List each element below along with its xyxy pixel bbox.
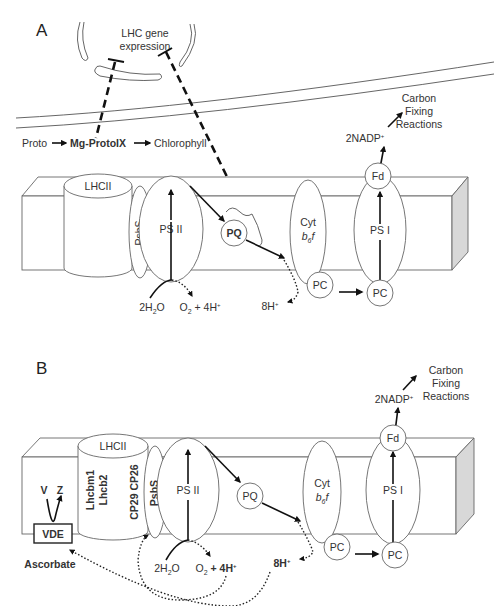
h8-label: 8H+	[262, 300, 279, 312]
cyt-label: Cyt	[300, 216, 316, 228]
fd-label-b: Fd	[387, 432, 399, 444]
mg-protoix-label: Mg-ProtoIX	[70, 137, 126, 149]
inhibition-bar-icon	[108, 59, 124, 62]
carbon-label-b: Carbon	[429, 364, 464, 376]
pc1-label-b: PC	[330, 541, 345, 553]
cyt-b6f-complex-b	[303, 441, 341, 543]
panel-b: B Carbon Fixing Reactions 2NADP+ LHCII L…	[22, 359, 474, 606]
water-label: 2H2O	[139, 301, 165, 315]
fixing-label: Fixing	[405, 105, 433, 117]
reactions-label-b: Reactions	[423, 390, 470, 402]
vde-label: VDE	[42, 528, 64, 540]
lhc-gene-expression-line2: expression	[120, 40, 171, 52]
lhcb2-label: Lhcb2	[97, 474, 109, 505]
lhcbm1-label: Lhcbm1	[84, 470, 96, 510]
psi-label-b: PS I	[383, 484, 403, 496]
oxygen-label: O2 + 4H+	[180, 301, 221, 315]
retrograde-signal-1	[96, 62, 115, 138]
proto-label: Proto	[22, 137, 47, 149]
fd-label: Fd	[372, 170, 384, 182]
cyt-label-b: Cyt	[314, 477, 330, 489]
lhcii-complex: LHCII	[64, 174, 132, 277]
oxygen-label-b: O2 + 4H+	[196, 562, 237, 576]
lhcii-label: LHCII	[85, 180, 112, 192]
nadp-label-b: 2NADP+	[375, 393, 414, 405]
nadp-label: 2NADP+	[346, 132, 385, 144]
h-to-vde-path	[70, 550, 270, 606]
photosynthesis-diagram: A LHC gene expression Proto Mg-ProtoIX C…	[0, 0, 494, 606]
pc2-label-b: PC	[388, 549, 403, 561]
ascorbate-label: Ascorbate	[24, 558, 76, 570]
lhcii-label-b: LHCII	[100, 440, 127, 452]
reactions-label: Reactions	[396, 118, 443, 130]
fixing-label-b: Fixing	[432, 377, 460, 389]
z-label: Z	[57, 484, 64, 496]
cp29-cp26-label: CP29 CP26	[128, 464, 140, 520]
lhc-gene-expression-line1: LHC gene	[121, 27, 168, 39]
pc1-label: PC	[313, 279, 328, 291]
lhcii-complex-b: LHCII Lhcbm1 Lhcb2 CP29 CP26	[78, 434, 148, 540]
panel-a-label: A	[36, 21, 48, 40]
pq-label: PQ	[226, 227, 241, 239]
chlorophyll-label: Chlorophyll	[154, 137, 207, 149]
h8-label-b: 8H+	[274, 557, 291, 569]
psii-label-b: PS II	[177, 484, 200, 496]
pq-label-b: PQ	[242, 490, 257, 502]
panel-b-label: B	[36, 359, 47, 378]
panel-a: A LHC gene expression Proto Mg-ProtoIX C…	[16, 21, 494, 315]
pc2-label: PC	[373, 287, 388, 299]
psi-label: PS I	[370, 224, 390, 236]
water-label-b: 2H2O	[154, 562, 180, 576]
carbon-label: Carbon	[402, 92, 437, 104]
v-label: V	[40, 484, 47, 496]
cyt-b6f-complex	[290, 180, 326, 284]
